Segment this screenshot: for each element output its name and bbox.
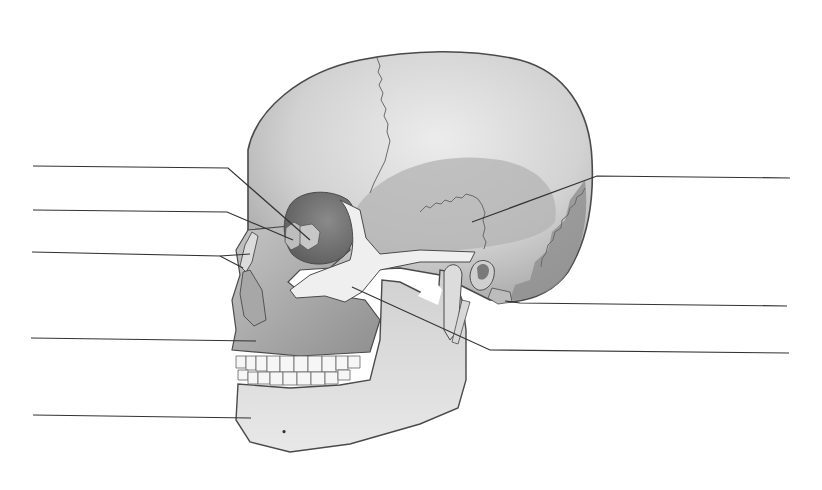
teeth [236, 356, 360, 385]
mental-foramen [282, 430, 285, 433]
skull-illustration [0, 0, 822, 490]
leader-line-left-5 [33, 415, 251, 418]
leader-line-left-4 [31, 338, 256, 341]
skull-diagram [0, 0, 822, 490]
leader-line-left-3 [32, 252, 243, 268]
leader-line-right-2 [505, 301, 787, 306]
